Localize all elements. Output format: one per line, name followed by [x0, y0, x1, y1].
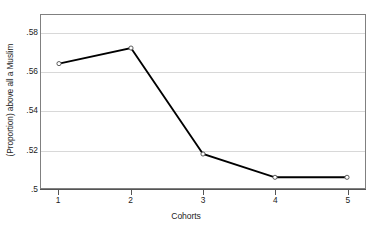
y-axis-tick-label: .52: [16, 145, 38, 153]
plot-area: [40, 14, 366, 189]
data-point-marker: [201, 152, 205, 156]
x-axis-tick-label: 2: [128, 196, 133, 204]
x-axis-tick-label: 3: [201, 196, 206, 204]
data-point-marker: [129, 46, 133, 50]
x-axis-tick-label: 1: [56, 196, 61, 204]
data-point-marker: [345, 175, 349, 179]
line-chart: (Proportion) above all a Muslim .58.56.5…: [0, 0, 372, 239]
y-axis-tick-label: .5: [16, 185, 38, 193]
x-axis-tick-label: 4: [273, 196, 278, 204]
x-axis-tick-label: 5: [346, 196, 351, 204]
y-axis-tick-labels: .58.56.54.52.5: [14, 0, 38, 239]
series-line: [59, 48, 347, 177]
y-axis-tick-label: .56: [16, 67, 38, 75]
x-axis-title: Cohorts: [0, 211, 372, 221]
data-point-marker: [273, 175, 277, 179]
y-axis-tick-label: .54: [16, 106, 38, 114]
data-point-marker: [57, 62, 61, 66]
series-layer: [41, 15, 365, 188]
y-axis-tick-label: .58: [16, 27, 38, 35]
